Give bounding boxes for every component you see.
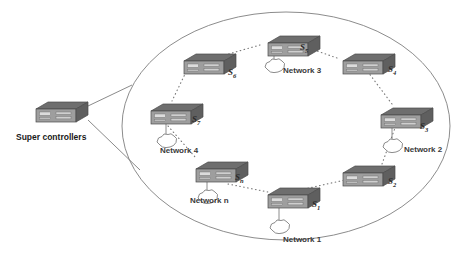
ring-link-s6-s7 <box>172 72 186 101</box>
ring-link-sn-s1 <box>228 184 268 192</box>
switch-icon-s5[interactable] <box>268 36 320 56</box>
super-controllers-label: Super controllers <box>16 133 86 142</box>
switch-label-s6: S6 <box>228 68 236 79</box>
network-label-3: Network 3 <box>283 67 321 75</box>
switch-label-s6-sub: 6 <box>233 72 236 79</box>
ring-link-s3-s4 <box>368 72 392 104</box>
switch-label-s3: S3 <box>420 122 428 133</box>
controller-link-lower <box>88 120 140 170</box>
diagram-canvas: Super controllers S1 S2 S3 S4 S5 S6 S7 S… <box>0 0 465 260</box>
cloud-network-1 <box>270 220 290 234</box>
network-label-4: Network 4 <box>160 147 198 155</box>
switch-label-s1: S1 <box>312 200 320 211</box>
network-label-2: Network 2 <box>404 146 442 154</box>
switch-label-s5: S5 <box>300 43 308 54</box>
switch-label-s1-sub: 1 <box>317 204 320 211</box>
switch-label-s3-sub: 3 <box>425 126 428 133</box>
cloud-network-2 <box>383 139 403 153</box>
cloud-network-3 <box>265 59 285 73</box>
switch-icon-super-controller[interactable] <box>36 102 88 122</box>
switch-label-s2: S2 <box>388 177 396 188</box>
switch-label-s4-sub: 4 <box>393 69 396 76</box>
switch-label-sn-sub: n <box>240 177 244 184</box>
network-topology-svg <box>0 0 465 260</box>
switch-label-s7-sub: 7 <box>197 119 200 126</box>
switch-label-s7: S7 <box>192 115 200 126</box>
switch-label-s2-sub: 2 <box>393 181 396 188</box>
switch-label-s5-sub: 5 <box>305 47 308 54</box>
controller-link-group <box>88 85 140 170</box>
switch-label-s4: S4 <box>388 65 396 76</box>
switch-label-sn: Sn <box>235 173 244 184</box>
network-label-n: Network n <box>190 197 229 205</box>
network-label-1: Network 1 <box>283 236 321 244</box>
